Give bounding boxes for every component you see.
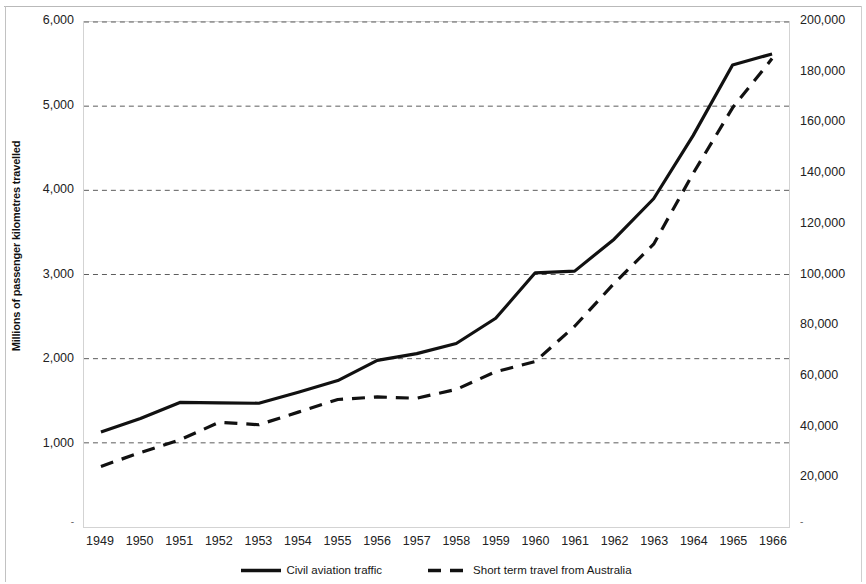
right-tick-label: 80,000: [800, 317, 838, 331]
right-tick-label: 60,000: [800, 368, 838, 382]
right-tick-label: 40,000: [800, 419, 838, 433]
series-line: [101, 54, 772, 432]
left-tick-label: 1,000: [0, 436, 74, 450]
legend-label: Short term travel from Australia: [473, 564, 632, 576]
legend-swatch-dashed: [428, 565, 468, 576]
legend-item[interactable]: Civil aviation traffic: [241, 564, 382, 576]
x-tick-label: 1952: [199, 534, 239, 548]
legend-swatch-solid: [241, 565, 281, 576]
x-tick-label: 1961: [555, 534, 595, 548]
left-tick-label: 4,000: [0, 182, 74, 196]
data-series-layer: [84, 22, 789, 527]
chart-figure: Millions of passenger kilometres travell…: [0, 0, 866, 584]
left-tick-label: 2,000: [0, 351, 74, 365]
x-tick-label: 1958: [436, 534, 476, 548]
right-tick-label: 100,000: [800, 267, 845, 281]
left-tick-label: 3,000: [0, 267, 74, 281]
right-tick-label: 20,000: [800, 469, 838, 483]
left-axis-tick-labels: 1,0002,0003,0004,0005,0006,000-: [0, 0, 74, 584]
x-tick-label: 1950: [120, 534, 160, 548]
page-frame-top-rule: [4, 6, 862, 7]
legend-item[interactable]: Short term travel from Australia: [428, 564, 632, 576]
right-tick-label: 200,000: [800, 13, 845, 27]
x-tick-label: 1954: [278, 534, 318, 548]
x-tick-label: 1965: [713, 534, 753, 548]
x-tick-label: 1955: [318, 534, 358, 548]
x-tick-label: 1951: [159, 534, 199, 548]
chart-legend: Civil aviation trafficShort term travel …: [83, 560, 790, 580]
x-tick-label: 1953: [238, 534, 278, 548]
left-tick-label: 6,000: [0, 13, 74, 27]
x-tick-label: 1963: [634, 534, 674, 548]
x-tick-label: 1957: [397, 534, 437, 548]
x-tick-label: 1964: [674, 534, 714, 548]
right-axis-tick-labels: 20,00040,00060,00080,000100,000120,00014…: [800, 0, 866, 584]
x-tick-label: 1960: [516, 534, 556, 548]
right-tick-label: 120,000: [800, 216, 845, 230]
series-line: [101, 59, 772, 467]
right-tick-label: 180,000: [800, 64, 845, 78]
x-tick-label: 1959: [476, 534, 516, 548]
left-axis-zero-marker: -: [0, 516, 74, 527]
x-tick-label: 1956: [357, 534, 397, 548]
x-tick-label: 1962: [595, 534, 635, 548]
x-tick-label: 1949: [80, 534, 120, 548]
right-tick-label: 140,000: [800, 165, 845, 179]
right-axis-zero-marker: -: [800, 516, 803, 527]
x-axis-tick-labels: 1949195019511952195319541955195619571958…: [83, 534, 790, 554]
left-tick-label: 5,000: [0, 98, 74, 112]
x-tick-label: 1966: [753, 534, 793, 548]
plot-area: [83, 21, 790, 528]
right-tick-label: 160,000: [800, 114, 845, 128]
legend-label: Civil aviation traffic: [286, 564, 382, 576]
